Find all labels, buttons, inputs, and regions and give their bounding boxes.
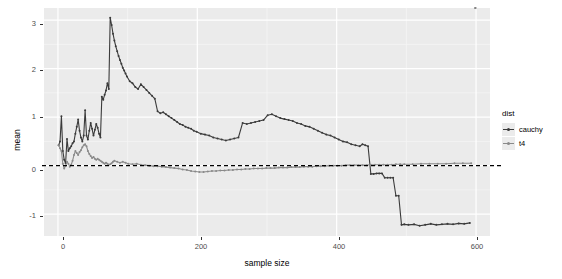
- legend-label-cauchy: cauchy: [519, 126, 543, 134]
- legend-key-t4-icon: [502, 137, 515, 150]
- y-tick-mark-1: [40, 117, 43, 118]
- y-tick-label-2: 2: [20, 66, 36, 74]
- plot-svg: [44, 8, 490, 236]
- y-tick-mark-3: [40, 24, 43, 25]
- x-tick-label-600: 600: [471, 243, 484, 251]
- x-tick-mark-600: [477, 237, 478, 240]
- legend-key-cauchy-icon: [502, 123, 515, 136]
- y-tick-label-3: 3: [20, 20, 36, 28]
- y-tick-label-1: 1: [20, 113, 36, 121]
- x-tick-mark-400: [339, 237, 340, 240]
- legend-key-dot-cauchy: [507, 128, 510, 131]
- x-tick-label-0: 0: [61, 243, 65, 251]
- grid-minor-group: [44, 8, 490, 236]
- legend-title: dist: [502, 110, 558, 118]
- x-tick-label-400: 400: [333, 243, 346, 251]
- y-tick-mark-minus1: [40, 216, 43, 217]
- plot-panel: [44, 8, 490, 236]
- y-axis-title: mean: [12, 129, 22, 150]
- x-tick-label-200: 200: [195, 243, 208, 251]
- y-tick-mark-2: [40, 70, 43, 71]
- legend-item-t4[interactable]: t4: [502, 137, 558, 150]
- y-tick-label-0: 0: [20, 166, 36, 174]
- legend-key-dot-t4: [507, 142, 510, 145]
- x-axis-title: sample size: [44, 258, 490, 268]
- chart-container: mean 3 2 1 0 -1 0 200 400 600 sample siz…: [0, 0, 562, 279]
- legend-label-t4: t4: [519, 140, 525, 148]
- y-tick-label-minus1: -1: [18, 212, 36, 220]
- legend-item-cauchy[interactable]: cauchy: [502, 123, 558, 136]
- x-tick-mark-0: [63, 237, 64, 240]
- y-tick-mark-0: [40, 170, 43, 171]
- x-tick-mark-200: [201, 237, 202, 240]
- legend: dist cauchy t4: [502, 110, 558, 151]
